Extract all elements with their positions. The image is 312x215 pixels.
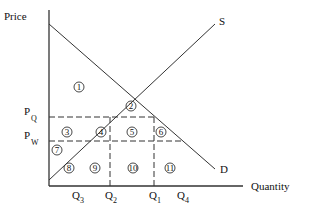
- x-axis-label: Quantity: [251, 180, 290, 192]
- supply-label: S: [219, 15, 225, 27]
- y-axis-label: Price: [4, 10, 27, 22]
- region-number-7: 7: [55, 145, 60, 155]
- price-subscript-q: Q: [31, 114, 37, 123]
- demand-curve: [49, 24, 215, 169]
- region-number-11: 11: [166, 163, 175, 173]
- diagram-canvas: PriceQuantityDSPQPWQ3Q2Q1Q41234567891011: [0, 0, 312, 215]
- supply-demand-diagram: PriceQuantityDSPQPWQ3Q2Q1Q41234567891011: [0, 0, 312, 215]
- region-number-8: 8: [67, 163, 72, 173]
- region-number-3: 3: [65, 127, 70, 137]
- quantity-label-q4: Q: [177, 189, 185, 201]
- quantity-subscript-q2: 2: [113, 196, 117, 205]
- quantity-label-q3: Q: [72, 189, 80, 201]
- quantity-subscript-q1: 1: [157, 196, 161, 205]
- region-number-4: 4: [99, 127, 104, 137]
- quantity-label-q1: Q: [149, 189, 157, 201]
- price-label-q: P: [24, 105, 30, 117]
- region-number-6: 6: [159, 127, 164, 137]
- quantity-subscript-q3: 3: [80, 196, 84, 205]
- price-subscript-w: W: [31, 138, 39, 147]
- demand-label: D: [220, 163, 228, 175]
- quantity-subscript-q4: 4: [185, 196, 189, 205]
- region-number-10: 10: [129, 163, 139, 173]
- region-number-5: 5: [130, 127, 135, 137]
- region-number-2: 2: [129, 101, 134, 111]
- price-label-w: P: [24, 129, 30, 141]
- region-number-9: 9: [93, 163, 98, 173]
- quantity-label-q2: Q: [105, 189, 113, 201]
- region-number-1: 1: [77, 82, 82, 92]
